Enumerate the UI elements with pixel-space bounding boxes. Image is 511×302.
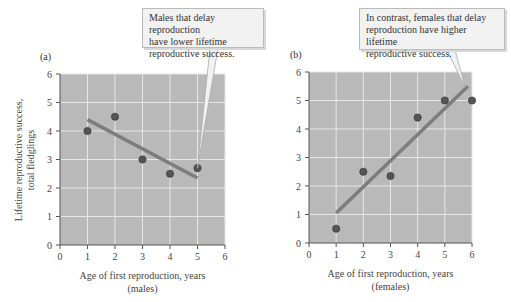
panel-a-males: 01234560123456(a)Age of first reproducti… — [40, 48, 228, 295]
y-tick-label: 3 — [296, 152, 301, 163]
callout-males-line-3: reproductive success. — [149, 48, 257, 60]
data-point — [441, 97, 448, 104]
x-tick-label: 5 — [195, 251, 200, 262]
y-tick-label: 1 — [296, 209, 301, 220]
x-tick-label: 1 — [334, 249, 339, 260]
x-tick-label: 6 — [223, 251, 228, 262]
callout-females: In contrast, females that delay reproduc… — [359, 8, 505, 50]
data-point — [84, 127, 91, 134]
x-axis-title: Age of first reproduction, years — [328, 268, 454, 279]
x-axis-subtitle: (males) — [128, 283, 158, 295]
data-point — [111, 113, 118, 120]
y-tick-label: 5 — [296, 95, 301, 106]
x-axis-subtitle: (females) — [372, 281, 410, 293]
panel-label: (b) — [290, 49, 302, 61]
y-tick-label: 6 — [296, 67, 301, 78]
callout-males-line-2: have lower lifetime — [149, 36, 257, 48]
y-tick-label: 6 — [47, 69, 52, 80]
callout-females-line-3: reproductive success. — [366, 48, 498, 60]
y-tick-label: 4 — [296, 124, 301, 135]
y-tick-label: 2 — [296, 181, 301, 192]
x-tick-label: 4 — [415, 249, 420, 260]
x-tick-label: 0 — [307, 249, 312, 260]
callout-males: Males that delay reproduction have lower… — [142, 8, 264, 48]
callout-females-line-1: In contrast, females that delay — [366, 12, 498, 24]
y-tick-label: 2 — [47, 183, 52, 194]
callout-males-line-1: Males that delay reproduction — [149, 12, 257, 36]
x-tick-label: 5 — [442, 249, 447, 260]
data-point — [166, 170, 173, 177]
x-tick-label: 6 — [470, 249, 475, 260]
data-point — [387, 172, 394, 179]
data-point — [139, 156, 146, 163]
y-tick-label: 0 — [47, 240, 52, 251]
y-axis-title: Lifetime reproductive success,total fled… — [13, 99, 36, 221]
y-tick-label: 1 — [47, 211, 52, 222]
x-tick-label: 1 — [85, 251, 90, 262]
y-tick-label: 0 — [296, 238, 301, 249]
y-axis-title-line-1: Lifetime reproductive success, — [13, 99, 24, 221]
x-tick-label: 2 — [361, 249, 366, 260]
data-point — [333, 225, 340, 232]
panel-label: (a) — [40, 51, 51, 63]
data-point — [360, 168, 367, 175]
y-tick-label: 5 — [47, 97, 52, 108]
x-tick-label: 3 — [140, 251, 145, 262]
panel-b-females: 01234560123456(b)Age of first reproducti… — [290, 49, 476, 293]
x-tick-label: 3 — [388, 249, 393, 260]
x-tick-label: 2 — [113, 251, 118, 262]
y-tick-label: 4 — [47, 126, 52, 137]
data-point — [468, 97, 475, 104]
y-axis-title-line-2: total fledglings — [25, 130, 36, 190]
x-tick-label: 0 — [58, 251, 63, 262]
y-tick-label: 3 — [47, 154, 52, 165]
callout-females-line-2: reproduction have higher lifetime — [366, 24, 498, 48]
x-axis-title: Age of first reproduction, years — [80, 270, 206, 281]
x-tick-label: 4 — [168, 251, 173, 262]
data-point — [414, 114, 421, 121]
